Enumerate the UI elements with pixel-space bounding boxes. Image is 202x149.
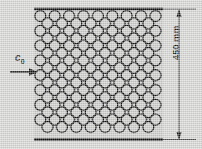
dimension-text-450mm: 450 mm <box>171 25 181 60</box>
figure-canvas: c0 450 mm <box>0 0 202 149</box>
inlet-velocity-label: c0 <box>15 52 25 65</box>
flow-arrow-right-icon <box>10 68 38 76</box>
inlet-velocity-subscript: 0 <box>21 58 25 65</box>
hole-field-background <box>34 10 163 139</box>
engineering-diagram-svg <box>0 0 202 149</box>
